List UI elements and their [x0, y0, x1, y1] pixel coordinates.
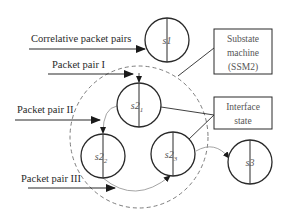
input-correlative-packet-pairs: Correlative packet pairs [29, 33, 145, 49]
transition-s2-2-to-s2-3 [103, 176, 170, 191]
transition-s2-3-to-s3 [196, 147, 229, 158]
input-label: Correlative packet pairs [31, 33, 131, 44]
state-s2-1: s21 [117, 83, 161, 127]
box-label-line: Interface [226, 102, 260, 112]
substate-machine-diagram: Correlative packet pairs Packet pair I P… [0, 0, 288, 214]
input-label: Packet pair I [52, 59, 106, 70]
box-interface-state: Interface state [214, 97, 272, 129]
box-label-line: Substate [227, 34, 259, 44]
box-label-line: state [234, 116, 251, 126]
box-substate-machine: Substate machine (SSM2) [214, 29, 272, 74]
transition-s2-1-to-s2-2 [103, 106, 117, 133]
box-label-line: machine [227, 48, 259, 58]
state-label: s3 [246, 157, 255, 168]
input-packet-pair-1: Packet pair I [48, 59, 133, 74]
connector-interface-s2-3 [188, 115, 214, 140]
connector-interface-s2-1 [161, 107, 214, 115]
input-label: Packet pair II [17, 104, 74, 115]
state-s1: s1 [145, 18, 189, 62]
input-label: Packet pair III [21, 173, 82, 184]
box-label-line: (SSM2) [228, 62, 258, 73]
state-s3: s3 [228, 140, 272, 184]
state-label: s1 [163, 35, 172, 46]
state-s2-2: s22 [81, 134, 125, 178]
state-s2-3: s23 [151, 132, 195, 176]
input-packet-pair-2: Packet pair II [15, 104, 100, 120]
